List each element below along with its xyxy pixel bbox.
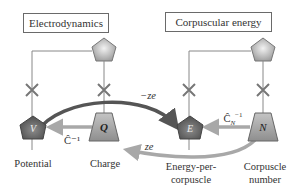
- corpuscle-number-caption: Corpuscle number: [240, 160, 290, 186]
- energy-line-1: Energy-per-: [163, 160, 219, 173]
- c-inverse-label: Ĉ⁻¹: [60, 134, 84, 147]
- left-source-pentagon-icon: [92, 38, 116, 61]
- cn-sup: −1: [235, 111, 242, 119]
- node-v-label: V: [26, 122, 40, 135]
- corpuscle-line-1: Corpuscle: [240, 160, 290, 173]
- minus-ze-label: −ze: [138, 89, 158, 102]
- charge-caption: Charge: [85, 157, 125, 170]
- corpuscle-line-2: number: [240, 173, 290, 186]
- node-q-label: Q: [97, 121, 111, 134]
- node-n-label: N: [256, 121, 270, 134]
- energy-per-corpuscle-caption: Energy-per- corpuscle: [163, 160, 219, 186]
- node-e-label: E: [183, 122, 197, 135]
- electrodynamics-label-box: Electrodynamics: [23, 13, 109, 33]
- ze-label: ze: [141, 140, 157, 153]
- corpuscular-energy-label-box: Corpuscular energy: [165, 12, 272, 32]
- right-source-pentagon-icon: [251, 38, 275, 61]
- energy-line-2: corpuscle: [163, 173, 219, 186]
- potential-caption: Potential: [6, 157, 60, 170]
- cn-sub: N: [230, 119, 235, 127]
- cn-inverse-label: ĈN−1: [219, 109, 247, 130]
